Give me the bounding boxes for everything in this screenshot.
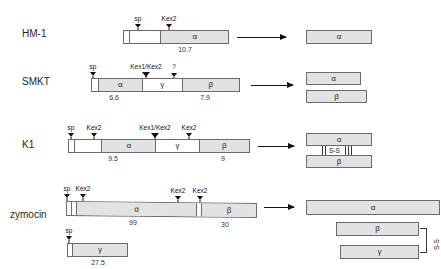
product-bar-smkt-beta: β	[306, 90, 367, 103]
mw-label-zymocin-alpha: 99	[118, 219, 148, 226]
mw-label-zymocin-beta: 30	[210, 221, 240, 228]
segment-label: β	[183, 81, 239, 89]
disulfide-bond-k1: S-S	[322, 146, 362, 156]
segment-alpha: α	[101, 140, 155, 152]
mw-label-k1-alpha: 9.5	[98, 155, 128, 162]
segment-pro	[129, 31, 160, 43]
marker-label: Kex2	[171, 188, 186, 195]
segment-label: α	[77, 205, 195, 214]
processing-arrow-zymocin	[264, 207, 294, 208]
segment-gamma: γ	[155, 140, 198, 152]
segment-gamma: γ	[142, 79, 182, 91]
product-label: β	[337, 225, 418, 233]
segment-alpha: α	[160, 31, 228, 43]
processing-arrow-k1	[258, 146, 294, 147]
segment-label: γ	[143, 81, 182, 89]
product-bar-k1-beta: β	[306, 155, 372, 168]
row-label-k1: K1	[22, 139, 34, 150]
marker-label: Kex2	[76, 186, 91, 193]
segment-label: γ	[73, 246, 127, 254]
segment-alpha: α	[98, 79, 142, 91]
product-label: α	[307, 33, 371, 41]
processing-arrow-hm1	[237, 37, 286, 38]
marker-label: Kex2	[162, 16, 177, 23]
mw-label-zymocin-gamma: 27.5	[82, 259, 114, 266]
precursor-bar-k1: α γ β	[68, 139, 250, 153]
marker-label: sp	[66, 228, 73, 235]
processing-arrow-smkt	[251, 85, 293, 86]
mw-label-smkt-alpha: 6.6	[99, 94, 129, 101]
segment-gamma: γ	[72, 244, 127, 256]
row-label-zymocin: zymocin	[10, 209, 47, 220]
product-label: α	[307, 204, 439, 212]
product-label: γ	[341, 248, 418, 256]
segment-label: γ	[156, 142, 198, 150]
product-bar-k1-alpha: α	[306, 133, 372, 146]
product-label: α	[307, 75, 360, 83]
marker-label: Kex1/Kex2	[130, 64, 161, 71]
product-bar-hm1-alpha: α	[306, 30, 372, 44]
marker-label: ?	[172, 64, 176, 71]
product-bar-smkt-alpha: α	[306, 72, 361, 85]
segment-label: β	[202, 206, 256, 215]
disulfide-bond-zymocin: S-S	[420, 228, 438, 253]
segment-label: α	[99, 81, 142, 89]
marker-sp-zymocin-gamma: sp	[62, 228, 76, 244]
mw-label-smkt-beta: 7.9	[190, 94, 220, 101]
row-label-smkt: SMKT	[22, 76, 50, 87]
segment-beta: β	[199, 140, 249, 152]
row-label-hm1: HM-1	[22, 28, 46, 39]
precursor-bar-zymocin: α β	[66, 201, 257, 218]
precursor-bar-hm1: α	[123, 30, 229, 44]
product-bar-zymocin-gamma: γ	[340, 245, 419, 259]
product-label: β	[307, 158, 371, 166]
product-label: α	[307, 136, 371, 144]
mw-label-hm1-alpha: 10.7	[165, 46, 205, 53]
mw-label-k1-beta: 9	[208, 155, 238, 162]
marker-label: sp	[68, 125, 75, 132]
marker-kex2-zymocin-a: Kex2	[70, 186, 96, 202]
segment-beta: β	[182, 79, 239, 91]
product-label: β	[307, 93, 366, 101]
segment-label: α	[102, 142, 155, 150]
product-bar-zymocin-beta: β	[336, 222, 419, 236]
segment-alpha: α	[76, 202, 195, 216]
segment-label: α	[161, 33, 228, 41]
marker-label: Kex2	[193, 188, 208, 195]
segment-label: β	[200, 142, 249, 150]
marker-label: Kex2	[87, 125, 102, 132]
product-bar-zymocin-alpha: α	[306, 200, 440, 215]
disulfide-label: S-S	[329, 148, 340, 155]
marker-label: sp	[135, 16, 142, 23]
marker-label: Kex2	[182, 125, 197, 132]
precursor-bar-zymocin-gamma: γ	[67, 243, 128, 257]
disulfide-label: S-S	[434, 239, 441, 250]
marker-label: Kex1/Kex2	[139, 125, 170, 132]
segment-pro	[74, 140, 101, 152]
precursor-bar-smkt: α γ β	[91, 78, 240, 92]
segment-beta: β	[201, 203, 256, 217]
marker-label: sp	[90, 64, 97, 71]
